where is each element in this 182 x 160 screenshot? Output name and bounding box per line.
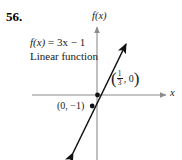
y-axis-label: f(x) bbox=[92, 10, 107, 21]
figure-container: 56. f(x) = 3x − 1 Linear function f(x) x… bbox=[0, 0, 182, 160]
close-paren: ) bbox=[134, 70, 140, 87]
equation-label: f(x) = 3x − 1 bbox=[30, 36, 85, 48]
point-x-intercept bbox=[95, 93, 100, 98]
point-label-x-intercept: ( 1 3 , 0 ) bbox=[111, 70, 139, 87]
point-y-intercept bbox=[90, 104, 95, 109]
x-axis-label: x bbox=[170, 87, 175, 98]
function-type-label: Linear function bbox=[30, 50, 98, 62]
fraction-denominator: 3 bbox=[117, 79, 123, 87]
coordinate-plane-graphic bbox=[0, 0, 182, 160]
point-label-y-intercept: (0, −1) bbox=[57, 100, 84, 111]
comma-zero-text: , 0 bbox=[123, 73, 134, 84]
fraction-numerator: 1 bbox=[117, 70, 123, 78]
equation-fx: f(x) bbox=[30, 36, 45, 48]
equation-body: = 3x − 1 bbox=[45, 36, 85, 48]
